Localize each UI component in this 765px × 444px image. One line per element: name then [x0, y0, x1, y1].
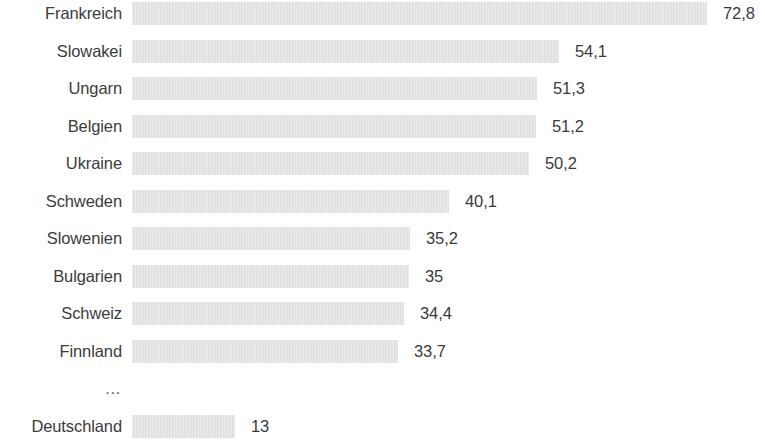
bar-row: Ukraine50,2: [0, 152, 765, 189]
bar: [132, 265, 409, 288]
bar: [132, 77, 537, 100]
bar-row: Belgien51,2: [0, 115, 765, 152]
bar-value-label: 35,2: [426, 227, 458, 250]
ellipsis-label: …: [0, 377, 122, 400]
bar-value-label: 35: [425, 265, 443, 288]
bar-row: Schweden40,1: [0, 190, 765, 227]
bar-value-label: 50,2: [545, 152, 577, 175]
bar: [132, 190, 449, 213]
bar-value-label: 34,4: [420, 302, 452, 325]
category-label: Finnland: [0, 340, 122, 363]
bar-row: Frankreich72,8: [0, 2, 765, 39]
bar: [132, 115, 536, 138]
bar-value-label: 51,3: [553, 77, 585, 100]
bar-row: Ungarn51,3: [0, 77, 765, 114]
bar-value-label: 40,1: [465, 190, 497, 213]
category-label: Ukraine: [0, 152, 122, 175]
bar: [132, 340, 398, 363]
bar-value-label: 13: [251, 415, 269, 438]
bar-row: Deutschland13: [0, 415, 765, 444]
horizontal-bar-chart: Frankreich72,8Slowakei54,1Ungarn51,3Belg…: [0, 0, 765, 444]
ellipsis-row: …: [0, 377, 765, 414]
category-label: Slowakei: [0, 40, 122, 63]
category-label: Bulgarien: [0, 265, 122, 288]
bar-row: Schweiz34,4: [0, 302, 765, 339]
bar-row: Slowakei54,1: [0, 40, 765, 77]
bar-row: Finnland33,7: [0, 340, 765, 377]
category-label: Schweden: [0, 190, 122, 213]
bar: [132, 227, 410, 250]
bar: [132, 415, 235, 438]
bar-value-label: 33,7: [414, 340, 446, 363]
category-label: Belgien: [0, 115, 122, 138]
bar-value-label: 51,2: [552, 115, 584, 138]
bar: [132, 152, 529, 175]
bar-value-label: 72,8: [723, 2, 755, 25]
bar-row: Slowenien35,2: [0, 227, 765, 264]
category-label: Slowenien: [0, 227, 122, 250]
category-label: Schweiz: [0, 302, 122, 325]
category-label: Deutschland: [0, 415, 122, 438]
category-label: Frankreich: [0, 2, 122, 25]
bar: [132, 40, 559, 63]
bar-row: Bulgarien35: [0, 265, 765, 302]
bar: [132, 2, 707, 25]
bar: [132, 302, 404, 325]
bar-value-label: 54,1: [575, 40, 607, 63]
category-label: Ungarn: [0, 77, 122, 100]
